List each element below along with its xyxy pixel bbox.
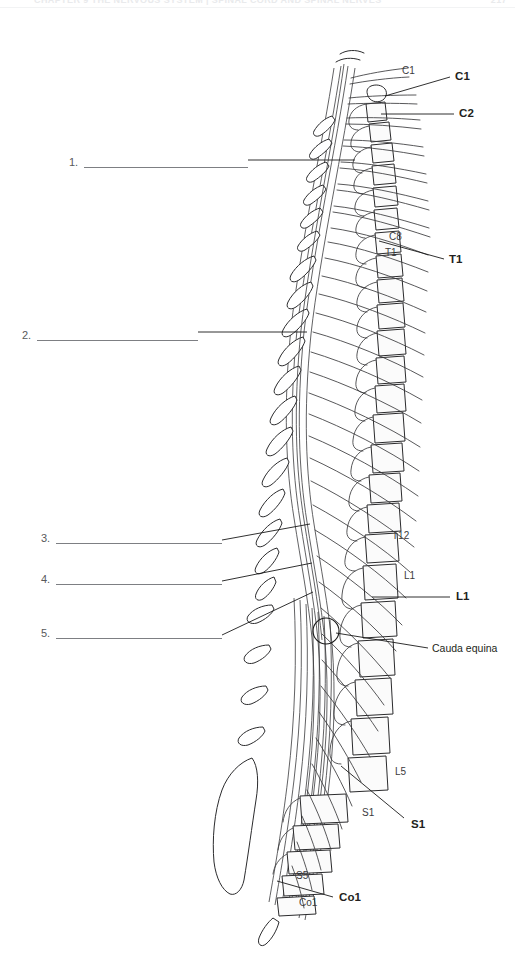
label-t1: T1 [449,254,463,266]
answer-blank-5-rule[interactable] [56,638,222,639]
answer-blank-5[interactable]: 5. [41,626,222,640]
label-s5-nerve: S5 [296,871,308,881]
c1-leader [385,77,450,96]
answer-blank-3-rule[interactable] [56,543,222,544]
label-s1: S1 [411,819,425,831]
label-cauda-equina: Cauda equina [432,643,497,654]
blank-5-leader [222,592,313,635]
answer-blank-2-rule[interactable] [37,340,198,341]
answer-blank-3-number: 3. [41,531,50,545]
label-t1-nerve: T1 [385,248,397,258]
answer-blank-1-rule[interactable] [84,167,248,168]
spinal-column-figure: .ln { fill:none; stroke:#2b2b2d; stroke-… [0,0,515,959]
answer-blank-4-number: 4. [41,572,50,586]
label-c8-nerve: C8 [389,232,402,242]
answer-blank-5-number: 5. [41,626,50,640]
answer-blank-2-number: 2. [22,328,31,342]
label-l1-nerve: L1 [404,571,415,581]
answer-blank-2[interactable]: 2. [22,328,198,342]
label-l5-nerve: L5 [395,767,406,777]
thoracic-vertebrae [255,231,406,600]
label-s1-nerve: S1 [362,808,374,818]
label-co1-nerve: Co1 [299,898,317,908]
answer-blank-1[interactable]: 1. [69,155,248,169]
label-t12-nerve: T12 [392,531,409,541]
label-co1: Co1 [339,892,361,904]
cervical-vertebrae [297,50,399,251]
label-c1-nerve: C1 [402,66,415,76]
answer-blank-4[interactable]: 4. [41,572,222,586]
worksheet-page: CHAPTER 9 THE NERVOUS SYSTEM | SPINAL CO… [0,0,515,959]
label-c2: C2 [459,108,474,120]
answer-blank-4-rule[interactable] [56,584,222,585]
label-c1: C1 [455,71,470,83]
answer-blank-1-number: 1. [69,155,78,169]
label-l1: L1 [456,591,470,603]
answer-blank-3[interactable]: 3. [41,531,222,545]
